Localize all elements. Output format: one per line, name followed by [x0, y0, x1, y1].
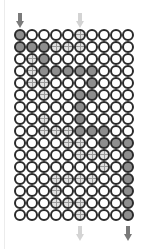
grid-circle-white — [38, 185, 50, 197]
grid-circle-white — [98, 65, 110, 77]
grid-circle-white — [38, 161, 50, 173]
grid-circle-white — [122, 101, 134, 113]
grid-circle-white — [38, 197, 50, 209]
grid-circle-white — [14, 185, 26, 197]
grid-circle-hatch — [74, 41, 86, 53]
grid-circle-white — [62, 209, 74, 221]
grid-circle-hatch — [50, 41, 62, 53]
grid-circle-hatch — [38, 77, 50, 89]
grid-circle-white — [62, 149, 74, 161]
grid-circle-white — [26, 89, 38, 101]
grid-circle-hatch — [74, 197, 86, 209]
grid-circle-white — [50, 209, 62, 221]
grid-circle-white — [14, 77, 26, 89]
grid-circle-gray — [14, 29, 26, 41]
grid-circle-gray — [122, 149, 134, 161]
grid-circle-white — [110, 149, 122, 161]
grid-circle-white — [86, 185, 98, 197]
grid-circle-white — [14, 209, 26, 221]
grid-circle-white — [50, 77, 62, 89]
grid-circle-white — [14, 53, 26, 65]
grid-circle-gray — [74, 101, 86, 113]
grid-circle-white — [26, 113, 38, 125]
grid-circle-white — [110, 173, 122, 185]
grid-circle-hatch — [62, 41, 74, 53]
grid-circle-white — [98, 89, 110, 101]
grid-circle-white — [98, 101, 110, 113]
grid-circle-gray — [86, 89, 98, 101]
grid-circle-white — [14, 161, 26, 173]
grid-circle-white — [110, 41, 122, 53]
grid-circle-gray — [86, 65, 98, 77]
grid-circle-white — [50, 29, 62, 41]
exit-arrow-gray-icon — [124, 226, 132, 241]
grid-circle-gray — [14, 41, 26, 53]
grid-circle-hatch — [98, 161, 110, 173]
grid-circle-hatch — [62, 137, 74, 149]
grid-circle-white — [38, 29, 50, 41]
grid-circle-gray — [122, 197, 134, 209]
grid-circle-white — [122, 65, 134, 77]
grid-circle-white — [38, 173, 50, 185]
grid-circle-white — [26, 173, 38, 185]
grid-circle-hatch — [50, 173, 62, 185]
grid-circle-white — [98, 185, 110, 197]
grid-circle-white — [122, 125, 134, 137]
grid-circle-white — [26, 137, 38, 149]
grid-circle-white — [86, 41, 98, 53]
grid-circle-white — [98, 53, 110, 65]
grid-circle-white — [122, 113, 134, 125]
grid-circle-white — [26, 185, 38, 197]
grid-circle-hatch — [74, 149, 86, 161]
grid-circle-white — [14, 173, 26, 185]
grid-circle-white — [98, 209, 110, 221]
grid-circle-hatch — [50, 197, 62, 209]
grid-circle-white — [110, 29, 122, 41]
grid-circle-white — [86, 161, 98, 173]
grid-circle-white — [62, 101, 74, 113]
grid-circle-white — [14, 197, 26, 209]
grid-circle-white — [74, 77, 86, 89]
grid-circle-white — [86, 113, 98, 125]
grid-circle-gray — [122, 137, 134, 149]
grid-circle-white — [38, 137, 50, 149]
grid-circle-gray — [26, 41, 38, 53]
grid-circle-white — [50, 53, 62, 65]
grid-circle-white — [110, 53, 122, 65]
grid-circle-hatch — [86, 173, 98, 185]
grid-circle-hatch — [62, 125, 74, 137]
grid-circle-white — [38, 209, 50, 221]
grid-circle-white — [62, 113, 74, 125]
grid-circle-white — [50, 161, 62, 173]
grid-circle-white — [98, 41, 110, 53]
grid-circle-white — [26, 161, 38, 173]
grid-circle-hatch — [50, 185, 62, 197]
grid-circle-gray — [38, 41, 50, 53]
grid-circle-white — [110, 77, 122, 89]
grid-circle-hatch — [38, 125, 50, 137]
grid-circle-white — [74, 161, 86, 173]
grid-circle-gray — [122, 209, 134, 221]
grid-circle-gray — [74, 125, 86, 137]
grid-circle-white — [98, 77, 110, 89]
grid-circle-gray — [38, 53, 50, 65]
grid-circle-white — [62, 185, 74, 197]
grid-circle-gray — [122, 173, 134, 185]
grid-circle-white — [50, 137, 62, 149]
grid-circle-white — [122, 41, 134, 53]
grid-circle-white — [122, 77, 134, 89]
grid-circle-white — [98, 197, 110, 209]
grid-circle-hatch — [26, 53, 38, 65]
grid-circle-white — [14, 89, 26, 101]
grid-circle-white — [86, 137, 98, 149]
grid-circle-white — [98, 29, 110, 41]
grid-circle-white — [110, 209, 122, 221]
grid-circle-gray — [122, 161, 134, 173]
grid-circle-white — [62, 77, 74, 89]
grid-circle-white — [26, 29, 38, 41]
grid-circle-white — [50, 89, 62, 101]
grid-circle-white — [26, 101, 38, 113]
grid-circle-white — [26, 209, 38, 221]
grid-circle-white — [110, 161, 122, 173]
grid-circle-white — [110, 185, 122, 197]
